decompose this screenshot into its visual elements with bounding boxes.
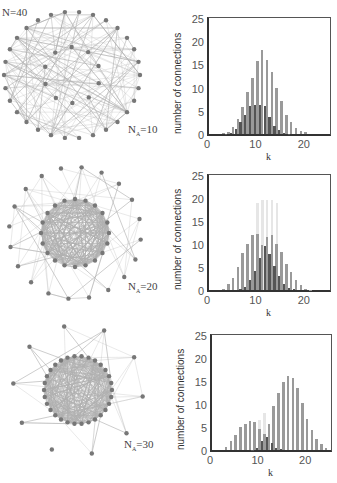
na-label: NA=20 xyxy=(128,280,158,294)
y-tick-label: 5 xyxy=(188,262,204,274)
histogram-bar xyxy=(256,448,258,450)
y-tick-label: 15 xyxy=(191,376,207,388)
histogram-bar xyxy=(249,106,251,134)
histogram-bar xyxy=(285,264,288,290)
na-label-prefix: N xyxy=(128,123,136,135)
histogram-bar xyxy=(230,441,233,450)
na-label-value: =20 xyxy=(140,280,157,292)
histogram-bar xyxy=(266,437,268,450)
na-label-prefix: N xyxy=(128,280,136,292)
histogram-bar xyxy=(225,447,228,450)
histogram-bar xyxy=(253,422,256,450)
histogram-bar xyxy=(249,280,251,290)
y-axis-label: number of connections xyxy=(175,349,186,450)
y-axis-label: number of connections xyxy=(172,33,183,134)
histogram-bar xyxy=(311,430,314,450)
histogram-bar xyxy=(241,253,244,290)
network-graph-na30: NA=30 xyxy=(0,320,170,480)
histogram-bar xyxy=(227,284,230,290)
y-tick-label: 20 xyxy=(191,353,207,365)
histogram-bar xyxy=(232,278,235,290)
histogram-bar xyxy=(264,246,266,290)
x-tick-label: 10 xyxy=(248,454,268,466)
histogram-bar xyxy=(244,115,246,134)
na-label-value: =30 xyxy=(136,438,153,450)
histogram-bar xyxy=(285,115,288,134)
y-tick-label: 5 xyxy=(188,106,204,118)
total-nodes-label: N=40 xyxy=(2,6,27,18)
histogram-bar xyxy=(278,276,280,290)
histogram-bar xyxy=(230,133,232,134)
histogram-bar xyxy=(234,435,237,450)
histogram-bar xyxy=(259,258,261,290)
x-axis-label: k xyxy=(266,151,271,162)
na-label-prefix: N xyxy=(124,438,132,450)
histogram-bar xyxy=(244,287,246,290)
histogram-bar xyxy=(254,105,256,134)
y-tick-label: 10 xyxy=(188,83,204,95)
x-tick-label: 20 xyxy=(295,454,315,466)
histogram-bar xyxy=(271,443,273,450)
x-tick-label: 0 xyxy=(200,454,220,466)
y-tick-label: 10 xyxy=(191,399,207,411)
histogram-bar xyxy=(304,289,307,290)
histogram-bar xyxy=(237,267,240,290)
histogram-bar xyxy=(304,132,307,134)
histogram-bar xyxy=(275,448,277,450)
y-tick-label: 15 xyxy=(188,216,204,228)
plot-area xyxy=(210,334,332,452)
histogram-bar xyxy=(268,254,270,290)
histogram-bar xyxy=(239,427,242,450)
x-tick-label: 0 xyxy=(197,138,217,150)
histogram-bar xyxy=(290,122,293,134)
histogram-bar xyxy=(239,289,241,290)
histogram-bar xyxy=(292,378,295,450)
x-axis-label: k xyxy=(268,467,273,478)
plot-area xyxy=(207,17,331,136)
x-tick-label: 20 xyxy=(294,294,314,306)
histogram-bar xyxy=(290,272,293,290)
histogram-bar xyxy=(239,122,241,134)
histogram-bar xyxy=(295,128,298,134)
histogram-bar xyxy=(282,382,285,450)
histogram-bar xyxy=(296,388,299,450)
y-tick-label: 5 xyxy=(191,422,207,434)
network-graph-icon xyxy=(0,160,170,320)
y-tick-label: 25 xyxy=(188,13,204,25)
x-axis-label: k xyxy=(266,307,271,318)
histogram-bar xyxy=(222,289,225,290)
x-tick-label: 20 xyxy=(294,138,314,150)
histogram-bar xyxy=(293,289,295,290)
histogram-bar xyxy=(287,376,290,450)
na-label: NA=10 xyxy=(128,123,158,137)
histogram-bar xyxy=(277,393,280,450)
y-tick-label: 15 xyxy=(188,59,204,71)
network-graph-na10: N=40 NA=10 xyxy=(0,0,170,160)
network-graph-icon xyxy=(0,320,170,480)
histogram-bar xyxy=(280,449,282,450)
histogram-bar xyxy=(235,129,237,134)
na-label-value: =10 xyxy=(140,123,157,135)
histogram-bar xyxy=(273,266,275,290)
x-tick-label: 0 xyxy=(197,294,217,306)
histogram-bar xyxy=(249,421,252,450)
histogram-bar xyxy=(315,439,318,450)
histogram-bar xyxy=(268,117,270,134)
y-axis-label: number of connections xyxy=(172,189,183,290)
histogram-bar xyxy=(261,441,263,450)
x-tick-label: 10 xyxy=(245,138,265,150)
histogram-bar xyxy=(288,288,290,290)
histogram-bar xyxy=(283,284,285,290)
histogram-bar xyxy=(300,131,303,134)
histogram-bar xyxy=(244,424,247,450)
histogram-bar xyxy=(300,285,303,290)
histogram-bar xyxy=(280,101,283,134)
histogram-bar xyxy=(283,133,285,134)
histogram-bar xyxy=(325,448,328,450)
histogram-bar xyxy=(278,130,280,134)
histogram-bar xyxy=(272,406,275,450)
histogram-bar xyxy=(273,126,275,134)
histogram-bar xyxy=(301,403,304,450)
y-tick-label: 25 xyxy=(188,170,204,182)
y-tick-label: 20 xyxy=(188,193,204,205)
